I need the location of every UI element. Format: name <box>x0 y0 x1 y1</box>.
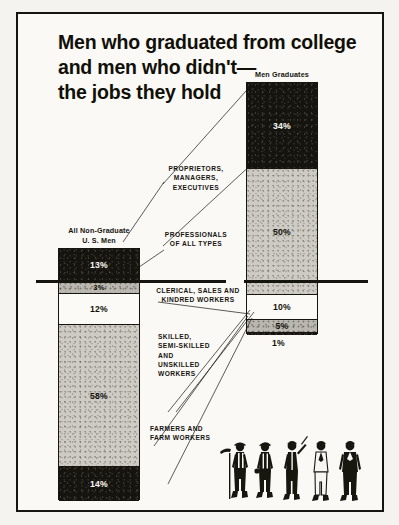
segment-value: 13% <box>90 260 108 270</box>
segment-value: 5% <box>276 321 289 331</box>
category-label-skilled-semiskilled-unskilled: SKILLED, SEMI-SKILLED AND UNSKILLED WORK… <box>158 332 240 379</box>
infographic-poster: Men who graduated from college and men w… <box>0 0 399 525</box>
poster-frame: Men who graduated from college and men w… <box>16 12 384 512</box>
figure-executive <box>339 441 361 501</box>
segment-value: 12% <box>90 304 108 314</box>
category-label-professionals-of-all-types: PROFESSIONALS OF ALL TYPES <box>150 230 242 249</box>
figure-laborer <box>254 442 273 498</box>
figure-farmer <box>220 443 248 500</box>
chart-baseline-left <box>36 280 226 283</box>
chart-baseline-right <box>244 280 368 283</box>
segment-value: 14% <box>90 479 108 489</box>
category-label-proprietors-managers-executives: PROPRIETORS, MANAGERS, EXECUTIVES <box>150 164 242 192</box>
category-label-farmers-and-farm-workers: FARMERS AND FARM WORKERS <box>150 424 242 443</box>
figure-teacher <box>283 436 308 500</box>
segment-value: 58% <box>90 391 108 401</box>
category-label-clerical-sales-kindred: CLERICAL, SALES AND KINDRED WORKERS <box>146 286 250 305</box>
segment-value: 50% <box>273 227 291 237</box>
segment-value: 3% <box>93 283 104 292</box>
segment-value: 34% <box>273 121 291 131</box>
segment-value: 10% <box>273 302 291 312</box>
figure-professional <box>312 441 329 501</box>
